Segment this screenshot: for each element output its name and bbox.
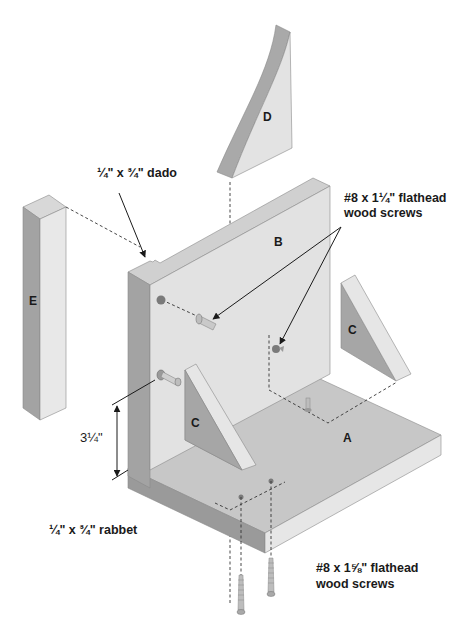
wood-screw-icon-2 xyxy=(267,558,275,597)
part-e-label: E xyxy=(29,294,37,308)
callout-screws-bottom-line2: wood screws xyxy=(315,577,395,591)
part-b-label: B xyxy=(274,235,283,249)
part-a-label: A xyxy=(343,431,352,445)
callout-dado: ¼" x ¾" dado xyxy=(97,166,177,180)
part-c-right: C xyxy=(341,275,411,381)
callout-screws-top-line2: wood screws xyxy=(343,206,423,220)
callout-screws-top-line1: #8 x 1¼" flathead xyxy=(344,191,447,205)
dimension-label: 3¼" xyxy=(80,430,103,445)
part-d-label: D xyxy=(263,110,272,124)
screw-head-icon-right xyxy=(272,345,280,353)
callout-screws-bottom-line1: #8 x 1⅝" flathead xyxy=(316,561,419,575)
callout-rabbet: ¼" x ¾" rabbet xyxy=(49,523,138,537)
dimension-extension-bottom xyxy=(112,470,128,480)
assembly-diagram: D E A B xyxy=(0,0,456,626)
part-d: D xyxy=(217,25,292,178)
part-e-front xyxy=(23,207,40,420)
wood-screw-icon-1 xyxy=(237,575,245,615)
part-c-front-label: C xyxy=(191,416,200,430)
part-e-side xyxy=(40,207,66,420)
part-e: E xyxy=(23,195,66,420)
screw-head-icon xyxy=(157,296,166,305)
leader-dado xyxy=(119,193,145,257)
alignment-line-e xyxy=(66,207,140,247)
part-b-side-edge xyxy=(128,272,150,488)
part-c-right-label: C xyxy=(348,323,357,337)
